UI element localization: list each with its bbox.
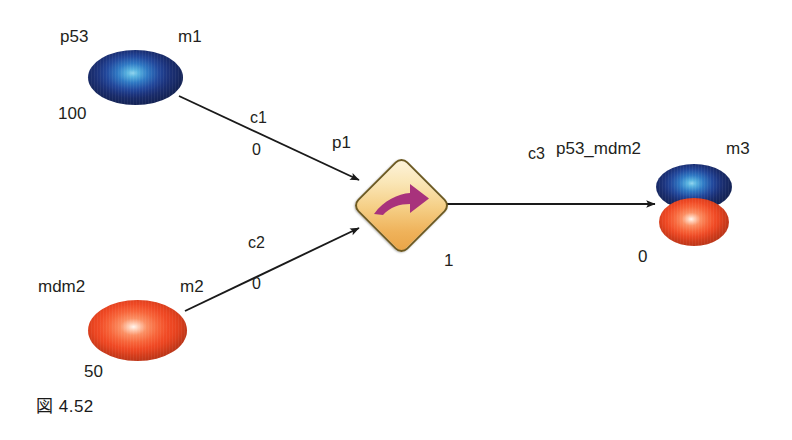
species-label-mdm2: mdm2 xyxy=(38,278,85,295)
figure-canvas: p53 m1 100 mdm2 m2 50 p1 1 p53_mdm2 m3 0… xyxy=(0,0,792,440)
reaction-id-p1: p1 xyxy=(332,134,351,151)
edge-label-c1: c1 xyxy=(250,110,267,126)
reaction-node-p1[interactable] xyxy=(351,155,451,255)
species-label-p53: p53 xyxy=(60,28,88,45)
species-node-mdm2[interactable] xyxy=(88,300,187,361)
species-node-p53[interactable] xyxy=(88,50,183,105)
complex-label-p53-mdm2: p53_mdm2 xyxy=(556,140,641,157)
edge-c2 xyxy=(185,228,359,311)
species-id-mdm2: m2 xyxy=(180,278,204,295)
edge-label-c3: c3 xyxy=(528,146,545,162)
complex-node-bottom-mdm2[interactable] xyxy=(659,198,729,246)
complex-id-m3: m3 xyxy=(726,140,750,157)
edge-value-c2: 0 xyxy=(252,276,261,292)
reaction-quantity-p1: 1 xyxy=(444,252,453,269)
complex-quantity-m3: 0 xyxy=(638,248,647,265)
edge-label-c2: c2 xyxy=(248,235,265,251)
edge-value-c1: 0 xyxy=(252,142,261,158)
species-id-p53: m1 xyxy=(178,28,202,45)
species-quantity-p53: 100 xyxy=(58,105,86,122)
species-quantity-mdm2: 50 xyxy=(84,363,103,380)
figure-caption: 図 4.52 xyxy=(36,392,94,417)
